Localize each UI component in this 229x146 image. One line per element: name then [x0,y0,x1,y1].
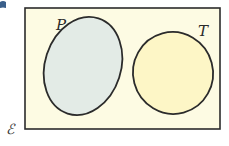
set-t-label: T [198,22,209,40]
venn-diagram: P T ℰ [0,0,229,146]
universal-set-label: ℰ [6,121,16,137]
corner-mark [0,1,6,8]
set-p-label: P [55,16,67,34]
